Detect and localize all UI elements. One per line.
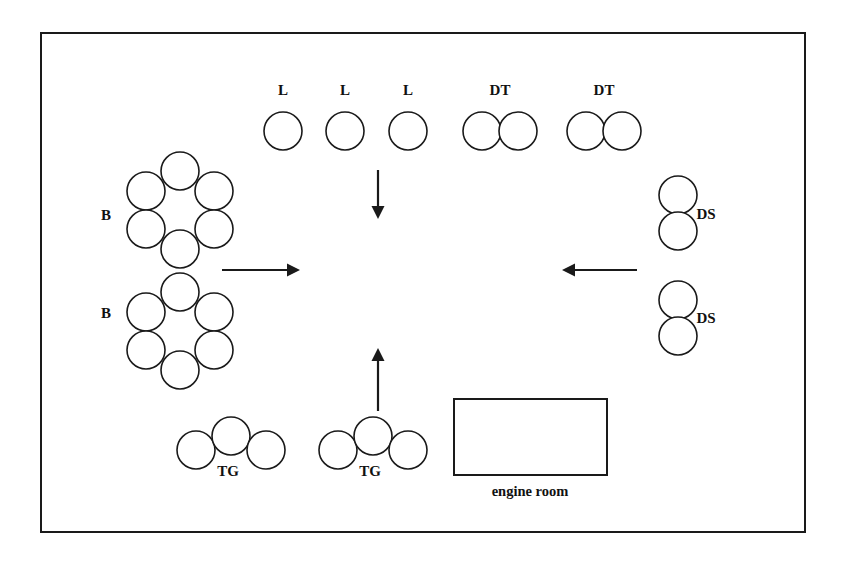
flow-arrows-layer (222, 170, 637, 411)
group-label-dt-1: DT (490, 82, 511, 98)
unit-circle (499, 112, 537, 150)
group-label-l-3: L (403, 82, 413, 98)
equipment-groups-layer: LLLDTDTBBDSDSTGTG (101, 82, 716, 479)
unit-circle (127, 172, 165, 210)
room-outline (454, 399, 607, 475)
group-label-b-1: B (101, 207, 111, 223)
group-label-b-2: B (101, 305, 111, 321)
unit-circle (127, 210, 165, 248)
equipment-group-l-3[interactable]: L (389, 82, 427, 150)
unit-circle (659, 281, 697, 319)
unit-circle (195, 172, 233, 210)
equipment-group-l-2[interactable]: L (326, 82, 364, 150)
unit-circle (127, 331, 165, 369)
unit-circle (567, 112, 605, 150)
unit-circle (247, 431, 285, 469)
equipment-group-dt-2[interactable]: DT (567, 82, 641, 150)
unit-circle (195, 331, 233, 369)
layout-diagram: LLLDTDTBBDSDSTGTG engine room (0, 0, 843, 565)
unit-circle (354, 417, 392, 455)
unit-circle (389, 431, 427, 469)
group-label-tg-1: TG (217, 463, 239, 479)
unit-circle (326, 112, 364, 150)
diagram-canvas: LLLDTDTBBDSDSTGTG engine room (0, 0, 843, 565)
group-label-tg-2: TG (359, 463, 381, 479)
room-label-engine-room: engine room (492, 483, 569, 499)
unit-circle (161, 152, 199, 190)
unit-circle (659, 176, 697, 214)
unit-circle (161, 230, 199, 268)
group-label-l-1: L (278, 82, 288, 98)
unit-circle (603, 112, 641, 150)
arrow-head-icon (287, 264, 300, 277)
equipment-group-b-2[interactable]: B (101, 273, 233, 389)
unit-circle (264, 112, 302, 150)
flow-arrow-down (372, 170, 385, 219)
equipment-group-ds-1[interactable]: DS (659, 176, 716, 250)
unit-circle (161, 273, 199, 311)
unit-circle (161, 351, 199, 389)
unit-circle (463, 112, 501, 150)
equipment-group-tg-2[interactable]: TG (319, 417, 427, 479)
flow-arrow-right (222, 264, 300, 277)
unit-circle (212, 417, 250, 455)
equipment-group-l-1[interactable]: L (264, 82, 302, 150)
flow-arrow-up (372, 348, 385, 411)
equipment-group-b-1[interactable]: B (101, 152, 233, 268)
unit-circle (389, 112, 427, 150)
group-label-l-2: L (340, 82, 350, 98)
unit-circle (659, 212, 697, 250)
equipment-group-tg-1[interactable]: TG (177, 417, 285, 479)
unit-circle (195, 293, 233, 331)
arrow-head-icon (372, 348, 385, 361)
room-engine-room[interactable]: engine room (454, 399, 607, 499)
rooms-layer: engine room (454, 399, 607, 499)
unit-circle (195, 210, 233, 248)
unit-circle (127, 293, 165, 331)
arrow-head-icon (372, 206, 385, 219)
unit-circle (319, 431, 357, 469)
arrow-head-icon (562, 264, 575, 277)
equipment-group-ds-2[interactable]: DS (659, 281, 716, 355)
flow-arrow-left (562, 264, 637, 277)
group-label-ds-2: DS (696, 310, 715, 326)
unit-circle (177, 431, 215, 469)
unit-circle (659, 317, 697, 355)
group-label-dt-2: DT (594, 82, 615, 98)
equipment-group-dt-1[interactable]: DT (463, 82, 537, 150)
group-label-ds-1: DS (696, 206, 715, 222)
